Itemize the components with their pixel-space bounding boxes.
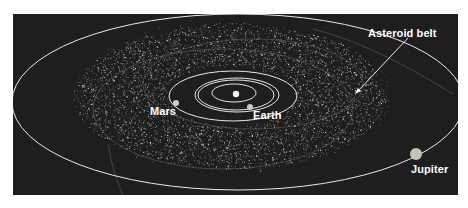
diagram-canvas — [13, 14, 458, 195]
asteroid-belt-diagram: Asteroid belt Mars Earth Jupiter — [13, 14, 458, 195]
asteroid-belt-label: Asteroid belt — [368, 27, 437, 39]
jupiter-label: Jupiter — [411, 163, 448, 175]
mars-label: Mars — [150, 105, 176, 117]
asteroid-belt-pointer — [358, 38, 408, 91]
jupiter-body — [410, 148, 422, 160]
sun-body — [233, 91, 239, 97]
asteroid-field — [74, 23, 389, 173]
earth-label: Earth — [253, 109, 282, 121]
planet-orbits — [13, 14, 458, 190]
